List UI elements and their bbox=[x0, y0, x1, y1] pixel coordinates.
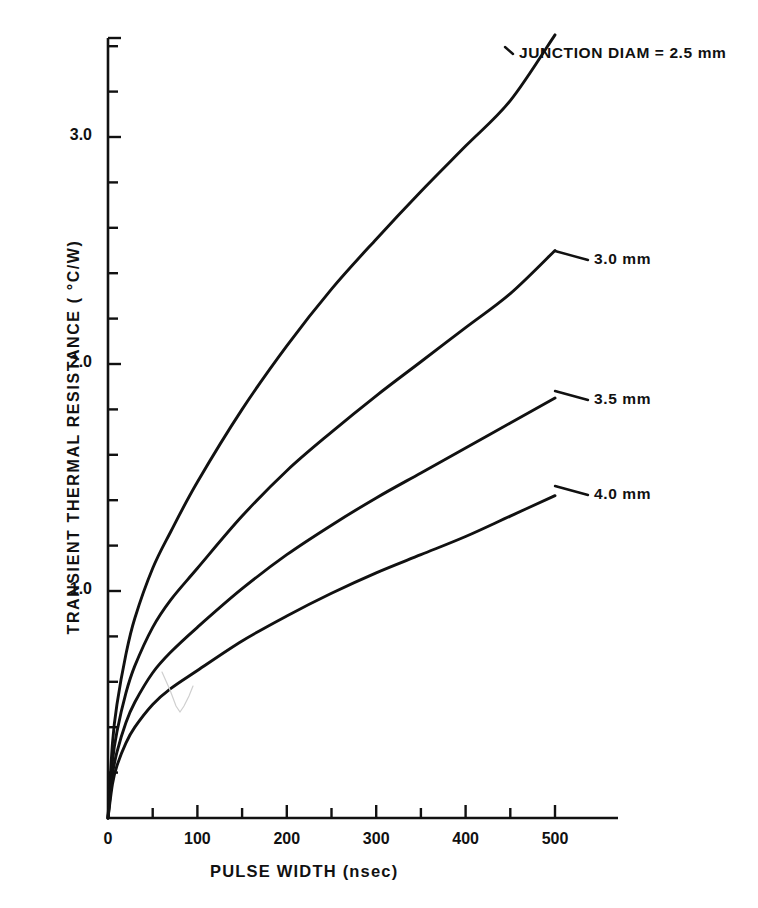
axes bbox=[108, 38, 618, 818]
data-curves bbox=[108, 35, 555, 818]
x-axis-title: PULSE WIDTH (nsec) bbox=[210, 862, 398, 881]
series-leader-line bbox=[505, 47, 513, 54]
series-leader-line bbox=[555, 251, 588, 260]
y-tick-label: 1.0 bbox=[32, 580, 92, 598]
series-label: JUNCTION DIAM = 2.5 mm bbox=[519, 44, 726, 62]
chart-plot-area bbox=[0, 0, 758, 908]
y-tick-label: 3.0 bbox=[32, 126, 92, 144]
x-tick-label: 100 bbox=[167, 830, 227, 848]
figure: TRANSIENT THERMAL RESISTANCE ( °C/W) PUL… bbox=[0, 0, 758, 908]
series-curve bbox=[108, 251, 555, 819]
x-tick-label: 400 bbox=[436, 830, 496, 848]
x-tick-label: 300 bbox=[346, 830, 406, 848]
label-leader-lines bbox=[505, 47, 588, 495]
y-axis-title: TRANSIENT THERMAL RESISTANCE ( °C/W) bbox=[65, 177, 83, 697]
series-leader-line bbox=[555, 391, 588, 400]
x-tick-label: 0 bbox=[78, 830, 138, 848]
series-curve bbox=[108, 35, 555, 818]
series-label: 3.0 mm bbox=[594, 250, 651, 268]
series-leader-line bbox=[555, 486, 588, 495]
series-curve bbox=[108, 398, 555, 818]
series-label: 4.0 mm bbox=[594, 485, 651, 503]
x-tick-label: 200 bbox=[257, 830, 317, 848]
y-tick-label: 2.0 bbox=[32, 353, 92, 371]
series-curve bbox=[108, 496, 555, 818]
x-tick-label: 500 bbox=[525, 830, 585, 848]
series-label: 3.5 mm bbox=[594, 390, 651, 408]
